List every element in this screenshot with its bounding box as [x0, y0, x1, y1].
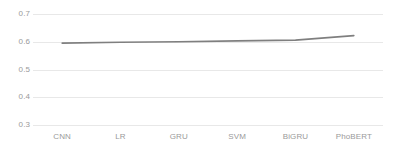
series-line-polyline	[62, 36, 354, 44]
series-layer	[0, 0, 398, 152]
line-chart: 0.7 0.6 0.5 0.4 0.3 CNN LR GRU SVM BiGRU…	[0, 0, 398, 152]
